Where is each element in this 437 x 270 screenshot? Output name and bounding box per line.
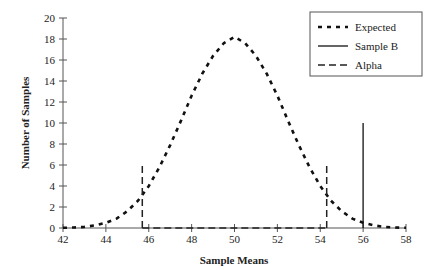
legend: ExpectedSample BAlpha [310,12,422,76]
legend-label: Sample B [355,40,398,52]
x-tick-label: 42 [58,233,69,245]
x-tick-label: 56 [358,233,370,245]
y-tick-label: 20 [44,12,56,24]
y-axis-title: Number of Samples [19,76,31,169]
legend-label: Expected [355,21,396,33]
x-tick-label: 50 [229,233,241,245]
y-tick-label: 2 [50,201,56,213]
y-tick-label: 16 [44,54,56,66]
sampling-distribution-chart: 42444648505254565802468101214161820 Expe… [0,0,437,270]
y-tick-label: 14 [44,75,56,87]
y-tick-label: 10 [44,117,56,129]
x-tick-label: 46 [143,233,155,245]
y-tick-label: 8 [50,138,56,150]
y-tick-label: 12 [44,96,55,108]
x-tick-label: 48 [186,233,198,245]
y-tick-label: 0 [50,222,56,234]
x-tick-label: 44 [100,233,112,245]
x-tick-label: 54 [315,233,327,245]
x-tick-label: 58 [401,233,413,245]
legend-label: Alpha [355,59,382,71]
y-tick-label: 6 [50,159,56,171]
y-tick-label: 4 [50,180,56,192]
x-tick-label: 52 [272,233,283,245]
y-tick-label: 18 [44,33,56,45]
x-axis-title: Sample Means [200,254,269,266]
